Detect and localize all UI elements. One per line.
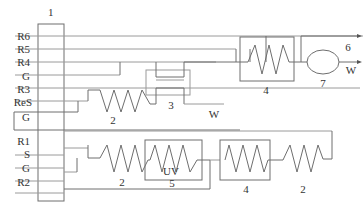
- label-5: 5: [169, 177, 175, 189]
- ellipse-7: [307, 50, 339, 74]
- coil-2-bottom-1: [88, 145, 150, 172]
- label-r5: R5: [17, 43, 30, 55]
- label-2-bottom-1: 2: [119, 176, 125, 188]
- label-g1: G: [22, 70, 30, 82]
- label-w-mid: W: [209, 108, 220, 120]
- label-4-bottom: 4: [243, 183, 249, 195]
- box-4-bottom: [220, 140, 270, 180]
- coil-4-top: [240, 45, 300, 74]
- coil-4-bottom: [225, 145, 275, 172]
- connector: [323, 131, 332, 159]
- g-box-line: [14, 112, 240, 130]
- label-4-top: 4: [263, 84, 269, 96]
- coil-2-bottom-2: [275, 145, 323, 172]
- label-g3: G: [22, 162, 30, 174]
- label-2-bottom-2: 2: [300, 183, 306, 195]
- label-s: S: [24, 148, 30, 160]
- label-7: 7: [320, 77, 326, 89]
- label-r6: R6: [17, 30, 30, 42]
- arrow-w-head: [357, 60, 362, 64]
- label-g2: G: [22, 111, 30, 123]
- exchanger-3-outer: [146, 70, 190, 95]
- label-3: 3: [168, 99, 174, 111]
- box-4-top: [240, 37, 294, 81]
- label-r2: R2: [17, 176, 30, 188]
- label-r1: R1: [17, 135, 30, 147]
- label-6: 6: [345, 41, 351, 53]
- label-res: ReS: [14, 96, 32, 108]
- label-w-top: W: [346, 64, 357, 76]
- label-r3: R3: [17, 83, 30, 95]
- label-uv: UV: [163, 165, 179, 177]
- process-diagram: 1 R6 R5 R4 G R3 ReS G 3 W 2 4 6 7 W: [0, 0, 364, 215]
- label-2-top: 2: [110, 114, 116, 126]
- label-r4: R4: [17, 56, 30, 68]
- arrow-6-head: [357, 34, 362, 38]
- block-1-label: 1: [48, 6, 54, 18]
